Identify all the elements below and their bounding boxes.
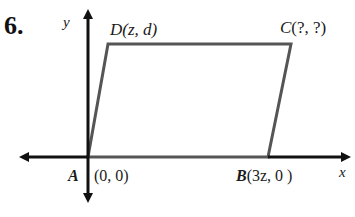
point-a-coords: (0, 0) [94,167,129,185]
x-axis-label: x [338,164,346,180]
problem-number: 6. [4,11,24,40]
point-c-label: C(?, ?) [280,18,326,37]
y-axis-label: y [61,14,70,30]
point-d-label: D(z, d) [109,20,158,39]
coordinate-diagram: 6. y x D(z, d) C(?, ?) A (0, 0) B(3z, 0 … [0,0,355,217]
parallelogram-abcd [88,44,291,157]
point-b-label: B(3z, 0 ) [235,167,292,185]
point-a-name: A [67,167,79,184]
